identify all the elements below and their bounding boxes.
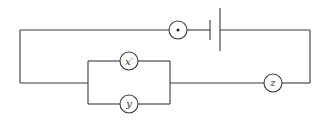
y-element: y <box>120 95 138 113</box>
z-element: z <box>264 74 282 92</box>
dot-element <box>169 21 187 39</box>
circuit-diagram: x′ y z <box>0 0 329 126</box>
center-dot-icon <box>177 29 180 32</box>
battery-cell <box>210 8 220 51</box>
y-label: y <box>125 98 132 109</box>
x-prime-element: x′ <box>120 52 138 70</box>
z-label: z <box>269 77 276 88</box>
x-prime-label: x′ <box>125 56 134 67</box>
